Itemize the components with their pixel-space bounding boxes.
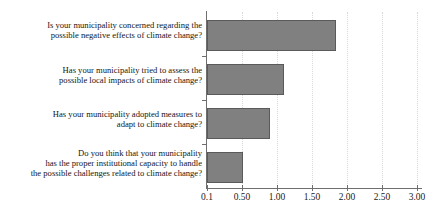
bar-1 <box>207 64 284 95</box>
y-axis-tick-2 <box>202 100 207 101</box>
x-axis-line <box>206 188 422 189</box>
x-axis-tick-4 <box>347 185 348 191</box>
bar-3 <box>207 152 243 183</box>
y-axis-tick-3 <box>202 144 207 145</box>
x-axis-tick-label-1: 0.50 <box>234 192 251 203</box>
bar-chart: 0.1 0.50 1.00 1.50 2.00 2.50 3.00 Is you… <box>0 0 429 216</box>
x-axis-tick-6 <box>417 185 418 191</box>
bar-0 <box>207 20 336 51</box>
x-axis-tick-label-5: 2.50 <box>374 192 391 203</box>
x-axis-tick-label-3: 1.50 <box>304 192 321 203</box>
gridline-6 <box>417 12 418 188</box>
category-label-1: Has your municipality tried to assess th… <box>2 65 202 85</box>
category-label-2: Has your municipality adopted measures t… <box>2 109 202 129</box>
x-axis-tick-5 <box>382 185 383 191</box>
x-axis-tick-label-2: 1.00 <box>269 192 286 203</box>
x-axis-tick-3 <box>312 185 313 191</box>
x-axis-tick-1 <box>242 185 243 191</box>
x-axis-tick-0 <box>207 185 208 191</box>
x-axis-tick-label-0: 0.1 <box>201 192 213 203</box>
category-label-0: Is your municipality concerned regarding… <box>2 20 202 40</box>
x-axis-tick-2 <box>277 185 278 191</box>
category-label-3: Do you think that your municipality has … <box>2 148 202 179</box>
x-axis-tick-label-6: 3.00 <box>409 192 426 203</box>
gridline-5 <box>382 12 383 188</box>
y-axis-tick-1 <box>202 56 207 57</box>
gridline-4 <box>347 12 348 188</box>
x-axis-tick-label-4: 2.00 <box>339 192 356 203</box>
bar-2 <box>207 108 270 139</box>
